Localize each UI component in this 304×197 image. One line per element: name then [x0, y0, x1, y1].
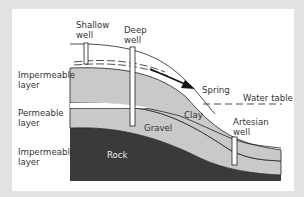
- deep-well: [130, 47, 135, 126]
- label-deep-well: Deep well: [124, 25, 147, 45]
- artesian-well: [232, 137, 237, 165]
- label-impermeable-bottom: Impermeable layer: [18, 147, 75, 167]
- label-shallow-well: Shallow well: [76, 20, 109, 40]
- label-clay: Clay: [184, 110, 203, 120]
- label-impermeable-top: Impermeable layer: [18, 70, 75, 90]
- label-artesian-well: Artesian well: [233, 117, 269, 137]
- label-rock: Rock: [107, 150, 128, 160]
- label-water-table: Water table: [243, 93, 293, 103]
- label-gravel: Gravel: [144, 123, 172, 133]
- label-spring: Spring: [202, 85, 230, 95]
- label-permeable: Permeable layer: [18, 108, 64, 128]
- shallow-well: [84, 43, 88, 64]
- spring-arrow-head: [181, 80, 195, 89]
